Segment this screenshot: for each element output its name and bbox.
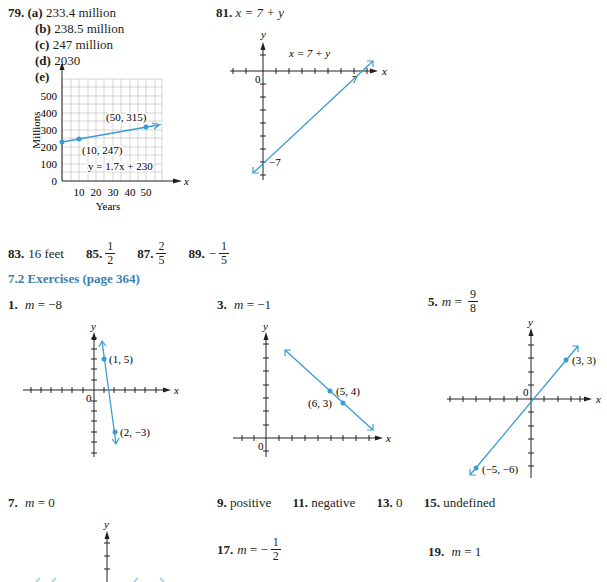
part-label: (a) [28, 5, 43, 20]
graph-ex5: y x 0 (3, 3) (−5, −6) [440, 318, 607, 478]
svg-text:x = 7 + y: x = 7 + y [288, 47, 330, 59]
point-label: (10, 247) [82, 144, 123, 157]
svg-text:(3, 3): (3, 3) [572, 354, 596, 367]
svg-text:10: 10 [74, 186, 86, 198]
equation: x = 7 + y [236, 5, 285, 20]
svg-text:200: 200 [41, 141, 58, 153]
exercise-3: 3. m = −1 [217, 297, 271, 313]
svg-text:(−5, −6): (−5, −6) [482, 463, 519, 476]
part-label: (c) [35, 37, 49, 52]
svg-text:y: y [103, 520, 109, 530]
exercise-5: 5. m = 98 [428, 288, 478, 315]
svg-text:x: x [173, 384, 179, 396]
svg-text:50: 50 [141, 186, 153, 198]
problem-number: 89. [188, 246, 204, 262]
svg-text:y: y [527, 318, 533, 328]
fraction: 12 [105, 240, 115, 267]
part-value: 233.4 million [46, 5, 116, 20]
part-value: 238.5 million [54, 21, 124, 36]
problem-number: 87. [137, 246, 153, 262]
svg-text:(2, −3): (2, −3) [120, 426, 150, 439]
fraction: 15 [219, 240, 229, 267]
exercise-1: 1. m = −8 [8, 297, 62, 313]
svg-text:0: 0 [258, 440, 264, 452]
x-axis-label: x [183, 175, 189, 187]
graph-ex7: y [0, 520, 200, 582]
svg-text:40: 40 [125, 186, 137, 198]
svg-text:y: y [90, 322, 96, 332]
svg-text:0: 0 [86, 392, 92, 404]
exercise-7: 7. m = 0 [8, 495, 55, 511]
y-axis-title: Millions [30, 111, 42, 148]
population-graph: x 500 400 300 200 100 0 10 20 30 40 50 Y… [0, 64, 200, 220]
svg-text:30: 30 [108, 186, 120, 198]
part-value: 247 million [53, 37, 113, 52]
section-heading: 7.2 Exercises (page 364) [8, 271, 140, 287]
answer: 16 feet [28, 246, 64, 262]
x-axis-title: Years [96, 200, 121, 212]
graph-81: y x 0 x = 7 + y 7 −7 [225, 25, 415, 185]
fraction: 25 [156, 240, 166, 267]
problem-number: 85. [86, 246, 102, 262]
svg-text:(5, 4): (5, 4) [336, 385, 360, 398]
part-label: (b) [35, 21, 51, 36]
problem-number: 79. [8, 5, 24, 20]
exercise-17: 17. m = − 12 [217, 536, 281, 563]
svg-text:y: y [260, 28, 266, 40]
exercise-19: 19. m = 1 [428, 544, 481, 560]
svg-text:(6, 3): (6, 3) [308, 397, 332, 410]
svg-text:500: 500 [41, 90, 58, 102]
problem-number: 81. [216, 5, 232, 20]
graph-ex1: y x 0 (1, 5) (2, −3) [20, 322, 190, 462]
svg-text:y: y [262, 322, 268, 332]
svg-text:300: 300 [41, 124, 58, 136]
svg-text:−7: −7 [269, 156, 281, 168]
svg-text:400: 400 [41, 107, 58, 119]
equation-label: y = 1.7x + 230 [88, 160, 153, 172]
svg-text:x: x [595, 393, 601, 405]
problem-81: 81. x = 7 + y [216, 5, 284, 21]
svg-text:20: 20 [91, 186, 103, 198]
svg-text:100: 100 [41, 158, 58, 170]
exercises-9-15: 9. positive 11. negative 13. 0 15. undef… [217, 495, 495, 511]
svg-text:x: x [385, 432, 391, 444]
svg-text:(1, 5): (1, 5) [109, 353, 133, 366]
problem-number: 83. [8, 246, 24, 262]
svg-text:0: 0 [523, 386, 529, 398]
point-label: (50, 315) [106, 111, 147, 124]
svg-text:0: 0 [52, 175, 58, 187]
answers-row: 83. 16 feet 85. 12 87. 25 89. − 15 [8, 240, 229, 267]
svg-text:0: 0 [255, 73, 261, 85]
svg-text:x: x [381, 65, 387, 77]
graph-ex3: y x 0 (5, 4) (6, 3) [230, 322, 400, 462]
